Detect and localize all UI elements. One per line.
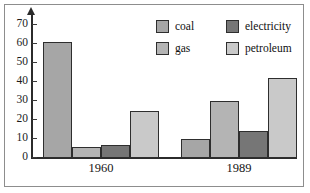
- electricity-swatch-icon: [226, 20, 239, 33]
- y-tick-label-40: 40: [8, 75, 28, 87]
- bar-electricity-1960: [101, 145, 130, 158]
- y-tick-label-60: 60: [8, 37, 28, 49]
- bar-petroleum-1989: [268, 78, 297, 158]
- group-label-1960: 1960: [43, 161, 159, 176]
- group-label-1989: 1989: [181, 161, 297, 176]
- bar-gas-1989: [210, 101, 239, 158]
- legend-item-electricity: electricity: [226, 20, 302, 33]
- legend-item-petroleum: petroleum: [226, 42, 302, 55]
- y-tick-label-20: 20: [8, 113, 28, 125]
- y-tick-label-30: 30: [8, 94, 28, 106]
- gas-swatch-icon: [156, 42, 169, 55]
- y-tick-label-10: 10: [8, 132, 28, 144]
- chart-legend: coal electricity gas petroleum: [156, 15, 302, 59]
- y-tick-label-70: 70: [8, 18, 28, 30]
- y-tick-label-50: 50: [8, 56, 28, 68]
- bar-petroleum-1960: [130, 111, 159, 158]
- coal-swatch-icon: [156, 20, 169, 33]
- legend-item-gas: gas: [156, 42, 226, 55]
- bar-coal-1989: [181, 139, 210, 158]
- legend-label-coal: coal: [175, 20, 194, 32]
- chart-screenshot: 010203040506070 19601989 coal electricit…: [0, 0, 310, 193]
- legend-label-electricity: electricity: [245, 20, 291, 32]
- bar-chart: 010203040506070 19601989 coal electricit…: [0, 0, 310, 193]
- legend-item-coal: coal: [156, 20, 226, 33]
- petroleum-swatch-icon: [226, 42, 239, 55]
- bar-coal-1960: [43, 42, 72, 158]
- y-tick-label-0: 0: [8, 151, 28, 163]
- legend-label-gas: gas: [175, 42, 190, 54]
- bar-electricity-1989: [239, 131, 268, 158]
- bar-gas-1960: [72, 147, 101, 158]
- legend-label-petroleum: petroleum: [245, 42, 292, 54]
